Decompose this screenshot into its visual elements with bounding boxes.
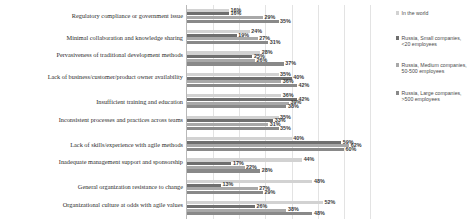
bar bbox=[187, 123, 268, 126]
bar-row: 27% bbox=[187, 187, 370, 190]
category-label: Minimal collaboration and knowledge shar… bbox=[3, 34, 183, 41]
bar-row: 44% bbox=[187, 158, 370, 161]
bar-value-label: 35% bbox=[280, 126, 291, 131]
bar-row: 52% bbox=[187, 201, 370, 204]
bar bbox=[187, 201, 323, 204]
bar bbox=[187, 127, 279, 130]
legend-item[interactable]: In the world bbox=[396, 10, 428, 16]
bar bbox=[187, 212, 312, 215]
bar-row: 22% bbox=[187, 166, 370, 169]
bar-value-label: 38% bbox=[288, 104, 299, 109]
bar bbox=[187, 184, 221, 187]
bar bbox=[187, 169, 260, 172]
bar-row: 28% bbox=[187, 169, 370, 172]
bar bbox=[187, 12, 229, 15]
bar-row: 62% bbox=[187, 144, 370, 147]
bar-value-label: 48% bbox=[314, 211, 325, 216]
bar-row: 28% bbox=[187, 51, 370, 54]
legend-swatch-icon bbox=[396, 63, 399, 66]
bar bbox=[187, 141, 341, 144]
legend-swatch-icon bbox=[396, 11, 399, 14]
category-label: Inadequate management support and sponso… bbox=[3, 158, 183, 165]
bar-row: 29% bbox=[187, 191, 370, 194]
bar-row: 17% bbox=[187, 162, 370, 165]
bar bbox=[187, 80, 281, 83]
bar-row: 42% bbox=[187, 84, 370, 87]
bar bbox=[187, 205, 255, 208]
bar-row: 24% bbox=[187, 30, 370, 33]
bar bbox=[187, 9, 229, 12]
bar-row: 36% bbox=[187, 80, 370, 83]
bar-row: 19% bbox=[187, 34, 370, 37]
bar bbox=[187, 51, 260, 54]
category-label: Insufficient training and education bbox=[3, 98, 183, 105]
legend-swatch-icon bbox=[396, 91, 399, 94]
plot-area: 16%16%29%35%24%19%27%31%28%25%26%37%35%4… bbox=[186, 5, 369, 219]
bar-row: 25% bbox=[187, 55, 370, 58]
bar-row: 39% bbox=[187, 102, 370, 105]
bar-row: 26% bbox=[187, 205, 370, 208]
category-axis-labels: Regulatory compliance or government issu… bbox=[0, 0, 186, 224]
bar bbox=[187, 158, 302, 161]
legend-swatch-icon bbox=[396, 36, 399, 39]
legend-label: Russia, Medium companies, 50-500 employe… bbox=[402, 62, 467, 74]
category-label: Regulatory compliance or government issu… bbox=[3, 12, 183, 19]
bar bbox=[187, 20, 279, 23]
bar bbox=[187, 105, 286, 108]
legend-label: In the world bbox=[402, 10, 429, 16]
bar-row: 38% bbox=[187, 209, 370, 212]
bar-value-label: 37% bbox=[285, 61, 296, 66]
bar bbox=[187, 116, 279, 119]
bar bbox=[187, 166, 245, 169]
bar bbox=[187, 209, 286, 212]
bar bbox=[187, 94, 281, 97]
bar bbox=[187, 137, 292, 140]
bar-row: 36% bbox=[187, 94, 370, 97]
bar-value-label: 42% bbox=[298, 83, 309, 88]
bar-value-label: 31% bbox=[270, 40, 281, 45]
legend-item[interactable]: Russia, Large companies, >500 employees bbox=[396, 90, 467, 102]
bar bbox=[187, 191, 263, 194]
bar-row: 31% bbox=[187, 41, 370, 44]
bar bbox=[187, 59, 255, 62]
bar bbox=[187, 34, 237, 37]
category-label: Inconsistent processes and practices acr… bbox=[3, 116, 183, 123]
bar bbox=[187, 119, 273, 122]
bar bbox=[187, 62, 284, 65]
bar-row: 16% bbox=[187, 12, 370, 15]
bar-row: 16% bbox=[187, 9, 370, 12]
legend-label: Russia, Small companies, <20 employees bbox=[402, 35, 467, 47]
legend-item[interactable]: Russia, Medium companies, 50-500 employe… bbox=[396, 62, 467, 74]
gridline bbox=[370, 5, 371, 219]
bar-row: 48% bbox=[187, 180, 370, 183]
bar-row: 48% bbox=[187, 212, 370, 215]
bar-row: 35% bbox=[187, 127, 370, 130]
category-label: Organizational culture at odds with agil… bbox=[3, 201, 183, 208]
category-label: General organization resistance to chang… bbox=[3, 183, 183, 190]
horizontal-bar-chart: Regulatory compliance or government issu… bbox=[0, 0, 467, 224]
bar-row: 31% bbox=[187, 123, 370, 126]
bar bbox=[187, 77, 292, 80]
category-label: Lack of skills/experience with agile met… bbox=[3, 141, 183, 148]
bar bbox=[187, 98, 297, 101]
bar-row: 42% bbox=[187, 98, 370, 101]
plot-column: 16%16%29%35%24%19%27%31%28%25%26%37%35%4… bbox=[186, 0, 467, 224]
bar-value-label: 29% bbox=[264, 190, 275, 195]
bar-row: 60% bbox=[187, 148, 370, 151]
bar bbox=[187, 148, 344, 151]
category-label: Pervasiveness of traditional development… bbox=[3, 51, 183, 58]
bar-value-label: 35% bbox=[280, 19, 291, 24]
bar bbox=[187, 144, 349, 147]
bar bbox=[187, 162, 231, 165]
bar bbox=[187, 84, 297, 87]
bar-row: 35% bbox=[187, 73, 370, 76]
legend-label: Russia, Large companies, >500 employees bbox=[402, 90, 467, 102]
bar bbox=[187, 41, 268, 44]
category-label: Lack of business/customer/product owner … bbox=[3, 73, 183, 80]
bar-row: 13% bbox=[187, 184, 370, 187]
bar bbox=[187, 73, 279, 76]
legend-item[interactable]: Russia, Small companies, <20 employees bbox=[396, 35, 467, 47]
bar-row: 35% bbox=[187, 20, 370, 23]
bar-row: 59% bbox=[187, 141, 370, 144]
bar-row: 40% bbox=[187, 77, 370, 80]
